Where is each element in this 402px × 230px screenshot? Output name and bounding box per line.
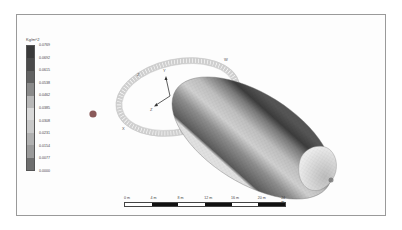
scale-segment xyxy=(178,203,205,206)
axis-label: W xyxy=(224,57,228,62)
scale-label: 8 m xyxy=(177,196,183,200)
scale-label: 16 m xyxy=(231,196,239,200)
axis-label: Y xyxy=(163,68,166,73)
scale-bar: 0 m 4 m 8 m 12 m 16 m 20 m 24 m xyxy=(124,196,286,207)
cap-spot xyxy=(329,178,334,183)
scale-segments xyxy=(124,202,286,207)
axis-label: X xyxy=(122,126,125,131)
scale-segment xyxy=(232,203,259,206)
scale-label: 12 m xyxy=(204,196,212,200)
scale-label: 0 m xyxy=(124,196,130,200)
point-marker[interactable] xyxy=(89,110,96,117)
scale-label: 24 m xyxy=(281,196,286,204)
scale-label: 4 m xyxy=(151,196,157,200)
scale-segment xyxy=(205,203,232,206)
axis-triad xyxy=(154,76,170,107)
axis-label: Z xyxy=(150,107,153,112)
scale-label: 20 m xyxy=(258,196,266,200)
scale-segment xyxy=(125,203,152,206)
scale-segment xyxy=(152,203,179,206)
